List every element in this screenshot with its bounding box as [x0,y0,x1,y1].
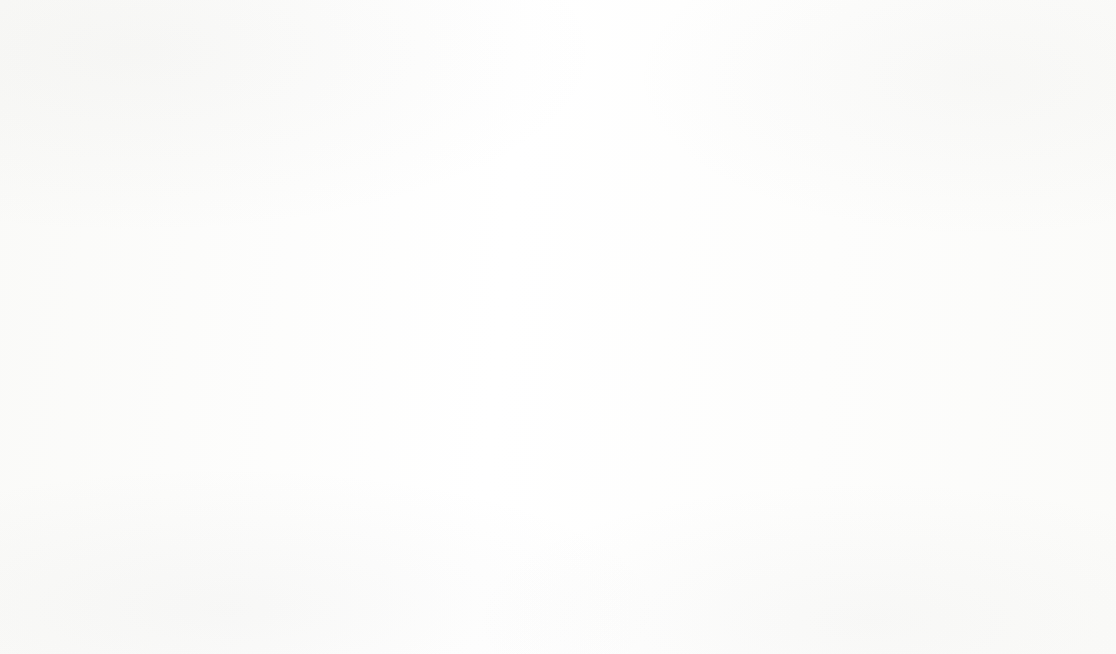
data-point [628,283,643,298]
x-tickmark [718,559,719,566]
data-point [846,198,861,213]
x-tickmark [229,559,230,566]
data-point [856,153,871,168]
x-tick-label: 4 [1055,566,1115,586]
chart-title: Pearson = 0.83 [0,14,1098,30]
x-tickmark [596,559,597,566]
x-tick-label: 2 [566,566,626,586]
data-point [922,189,937,204]
x-tickmark [1085,559,1086,566]
data-point [738,259,753,274]
data-point [768,229,783,244]
data-point [821,321,836,336]
data-point [709,282,724,297]
data-point [797,218,812,233]
data-point [782,193,797,208]
data-point [900,229,915,244]
data-point [883,141,898,156]
x-tick-label: 0.5 [199,566,259,586]
data-point [946,116,961,131]
x-tickmark [841,559,842,566]
x-tick-label: 1.5 [444,566,504,586]
data-point [728,208,743,223]
data-point [721,266,736,281]
data-point [772,255,787,270]
data-point [587,306,602,321]
data-point [763,200,778,215]
x-tick-label: 3 [811,566,871,586]
data-point [909,274,924,289]
x-tickmark [107,559,108,566]
data-point [736,352,751,367]
data-point [628,374,643,389]
x-tick-label: 3.5 [933,566,993,586]
data-point [812,216,827,231]
data-point [807,162,822,177]
data-point [836,162,851,177]
data-point [623,260,638,275]
data-point [592,385,607,400]
x-axis-title: Overall quality GPA per submission [107,597,1085,616]
x-tick-label: 0 [77,566,137,586]
plot-area [107,46,1085,556]
data-point [824,272,839,287]
data-point [912,161,927,176]
x-tick-label: 1 [322,566,382,586]
data-point [665,272,680,287]
data-point [787,166,802,181]
data-point [726,283,741,298]
data-point [870,189,885,204]
x-tickmark [474,559,475,566]
data-point [758,299,773,314]
x-tickmark [963,559,964,566]
x-tick-label: 2.5 [688,566,748,586]
data-point [846,212,861,227]
data-point [900,172,915,187]
y-axis-title: IMPACT GPA per Submisson [47,30,66,570]
data-point [856,178,871,193]
x-tickmark [352,559,353,566]
data-point [714,192,729,207]
data-point [961,144,976,159]
data-point [826,187,841,202]
x-axis-tick-labels: 00.511.522.533.54 [107,566,1085,596]
scatter-plot-figure: Pearson = 0.83 00.511.522.533.544.5 00.5… [0,0,1116,654]
data-point [733,229,748,244]
data-point [792,295,807,310]
data-points [110,49,1083,553]
data-point [746,241,761,256]
